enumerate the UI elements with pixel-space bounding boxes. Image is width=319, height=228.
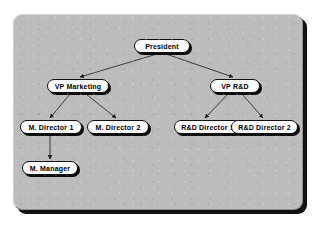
org-chart-screenshot: President VP Marketing VP R&D M. Directo…: [0, 0, 319, 228]
edge-president-to-vp-marketing: [80, 54, 157, 77]
edge-vp-rnd-to-rnd-director-2: [242, 94, 263, 118]
edge-president-to-vp-rnd: [166, 54, 233, 77]
edge-vp-rnd-to-rnd-director-1: [205, 94, 228, 118]
edge-vp-marketing-to-m-director-2: [86, 94, 116, 118]
org-node-vp-marketing[interactable]: VP Marketing: [47, 79, 109, 93]
org-node-rnd-director-2[interactable]: R&D Director 2: [231, 120, 298, 134]
org-chart-panel: President VP Marketing VP R&D M. Directo…: [13, 14, 303, 210]
org-node-vp-rnd[interactable]: VP R&D: [210, 79, 260, 93]
org-node-m-manager[interactable]: M. Manager: [22, 161, 78, 175]
edge-vp-marketing-to-m-director-1: [50, 94, 70, 118]
org-node-m-director-1[interactable]: M. Director 1: [20, 120, 82, 134]
org-node-m-director-2[interactable]: M. Director 2: [87, 120, 149, 134]
org-node-president[interactable]: President: [134, 39, 190, 53]
